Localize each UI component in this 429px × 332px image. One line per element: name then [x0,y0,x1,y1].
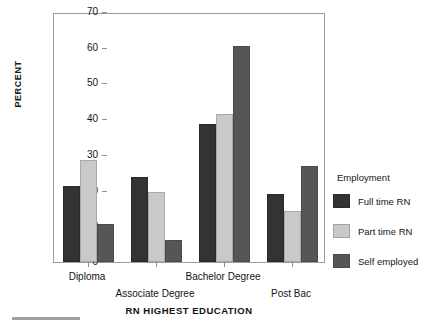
legend-label: Full time RN [358,196,410,207]
y-tick-label: 50 [87,76,98,89]
legend-swatch [333,194,350,208]
bar [199,124,216,262]
bar [165,240,182,262]
x-axis-label: Bachelor Degree [163,270,283,283]
y-tick-mark [102,155,107,156]
y-tick-mark [102,48,107,49]
x-axis-label: Associate Degree [95,287,215,300]
legend-entries: Full time RNPart time RNSelf employed [333,192,429,270]
legend-entry: Part time RN [333,222,429,240]
x-tick-mark [224,262,225,267]
y-tick-mark [102,262,107,263]
legend-entry: Self employed [333,252,429,270]
bar [97,224,114,262]
scan-artifact-rule [12,317,80,320]
bar [80,160,97,262]
bar [233,46,250,262]
y-tick-mark [102,119,107,120]
x-tick-mark [292,262,293,267]
x-tick-mark [88,262,89,267]
legend-title: Employment [337,172,429,183]
y-tick-label: 30 [87,148,98,161]
x-axis-label: Post Bac [231,287,351,300]
legend: Employment Full time RNPart time RNSelf … [333,172,429,282]
bar-chart-figure: PERCENT 010203040506070 DiplomaAssociate… [0,0,429,332]
y-axis-title: PERCENT [11,29,25,139]
legend-label: Part time RN [358,226,412,237]
y-tick-label: 40 [87,112,98,125]
bar [301,166,318,262]
bar [284,211,301,262]
y-tick-label: 60 [87,41,98,54]
bar [63,186,80,262]
x-axis-title: RN HIGHEST EDUCATION [53,305,325,316]
bar [216,114,233,262]
y-tick-label: 70 [87,5,98,18]
x-axis-label: Diploma [27,270,147,283]
legend-swatch [333,254,350,268]
plot-area: 010203040506070 [53,13,325,263]
legend-label: Self employed [358,256,418,267]
y-tick-mark [102,83,107,84]
bar [148,192,165,262]
bar [267,194,284,262]
legend-swatch [333,224,350,238]
y-tick-mark [102,191,107,192]
x-tick-mark [156,262,157,267]
bar [131,177,148,262]
legend-entry: Full time RN [333,192,429,210]
y-tick-mark [102,12,107,13]
